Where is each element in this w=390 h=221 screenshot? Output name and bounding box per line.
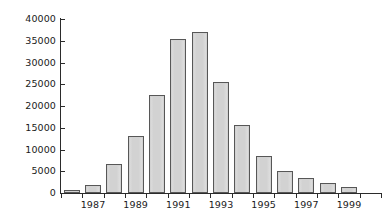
x-tick <box>360 194 361 198</box>
bar-chart: 0500010000150002000025000300003500040000… <box>0 0 390 221</box>
y-tick-5000 <box>61 171 65 172</box>
bar-1996 <box>277 171 293 193</box>
y-label-wrap: 20000 <box>0 106 56 107</box>
x-tick <box>189 194 190 198</box>
x-tick <box>338 194 339 198</box>
x-axis-label-1999: 1999 <box>337 200 362 210</box>
y-axis-label-30000: 30000 <box>4 58 56 68</box>
bar-1991 <box>170 39 186 193</box>
y-axis-label-35000: 35000 <box>4 36 56 46</box>
bar-1987 <box>85 185 101 193</box>
y-tick-15000 <box>61 128 65 129</box>
y-axis-label-5000: 5000 <box>4 166 56 176</box>
x-tick <box>125 194 126 198</box>
bar-1998 <box>320 183 336 193</box>
y-tick-35000 <box>61 41 65 42</box>
bar-1997 <box>298 178 314 193</box>
y-axis-label-15000: 15000 <box>4 123 56 133</box>
y-axis-line <box>60 18 61 194</box>
x-tick <box>381 194 382 198</box>
x-tick <box>168 194 169 198</box>
y-label-wrap: 10000 <box>0 150 56 151</box>
x-tick <box>232 194 233 198</box>
y-axis-label-10000: 10000 <box>4 145 56 155</box>
x-tick <box>104 194 105 198</box>
bar-1992 <box>192 32 208 193</box>
y-axis-label-20000: 20000 <box>4 101 56 111</box>
y-label-wrap: 40000 <box>0 19 56 20</box>
x-tick <box>210 194 211 198</box>
x-axis-line <box>60 193 382 194</box>
y-tick-20000 <box>61 106 65 107</box>
y-axis-label-25000: 25000 <box>4 79 56 89</box>
bar-1993 <box>213 82 229 193</box>
x-tick <box>146 194 147 198</box>
plot-area <box>61 19 381 193</box>
x-tick <box>61 194 62 198</box>
x-axis-label-1991: 1991 <box>166 200 191 210</box>
bar-1989 <box>128 136 144 193</box>
x-tick <box>274 194 275 198</box>
bar-1990 <box>149 95 165 193</box>
x-tick <box>317 194 318 198</box>
x-tick <box>296 194 297 198</box>
bar-1995 <box>256 156 272 193</box>
x-axis-label-1989: 1989 <box>123 200 148 210</box>
y-label-wrap: 0 <box>0 193 56 194</box>
bar-1994 <box>234 125 250 193</box>
x-axis-label-1995: 1995 <box>251 200 276 210</box>
y-label-wrap: 25000 <box>0 84 56 85</box>
y-label-wrap: 30000 <box>0 63 56 64</box>
y-tick-40000 <box>61 19 65 20</box>
y-label-wrap: 5000 <box>0 171 56 172</box>
x-axis-label-1987: 1987 <box>81 200 106 210</box>
bar-1988 <box>106 164 122 193</box>
y-tick-10000 <box>61 150 65 151</box>
y-tick-30000 <box>61 63 65 64</box>
y-tick-25000 <box>61 84 65 85</box>
y-axis-label-40000: 40000 <box>4 14 56 24</box>
y-axis-label-0: 0 <box>4 188 56 198</box>
x-axis-label-1993: 1993 <box>209 200 234 210</box>
x-axis-label-1997: 1997 <box>294 200 319 210</box>
y-label-wrap: 15000 <box>0 128 56 129</box>
y-label-wrap: 35000 <box>0 41 56 42</box>
x-tick <box>253 194 254 198</box>
x-tick <box>82 194 83 198</box>
